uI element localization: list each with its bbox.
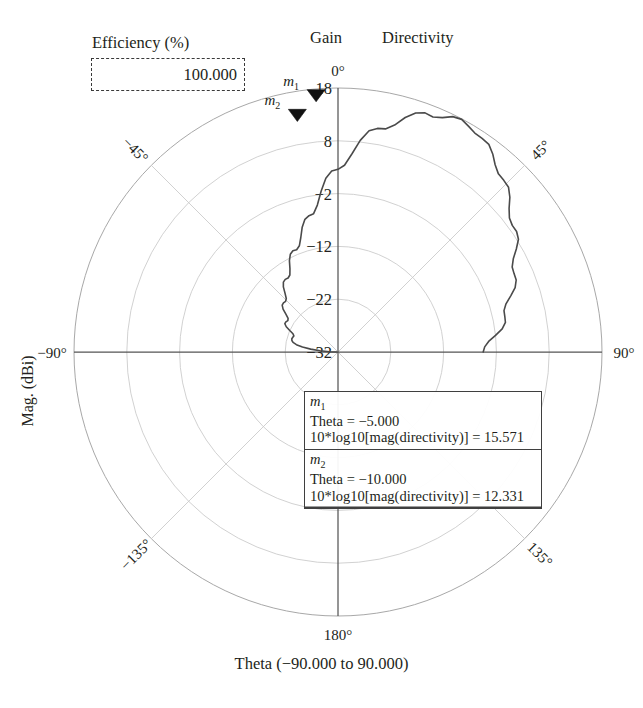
marker-readout-m2[interactable]: m2 Theta = −10.000 10*log10[mag(directiv… bbox=[304, 450, 542, 508]
y-axis-label: Mag. (dBi) bbox=[19, 336, 37, 446]
angle-tick-label: 135° bbox=[524, 539, 555, 570]
marker-readout-group: m1 Theta = −5.000 10*log10[mag(directivi… bbox=[304, 391, 542, 509]
marker-m1-name: m1 bbox=[310, 394, 536, 413]
x-axis-label: Theta (−90.000 to 90.000) bbox=[0, 654, 643, 674]
marker-m1-theta: Theta = −5.000 bbox=[310, 413, 536, 429]
radial-tick-labels: 188−2−12−22−32 bbox=[306, 79, 332, 362]
marker-triangle-m2[interactable] bbox=[288, 109, 306, 121]
efficiency-value: 100.000 bbox=[183, 65, 237, 85]
legend-item-directivity[interactable]: Directivity bbox=[382, 28, 453, 48]
angle-tick-label: 90° bbox=[614, 345, 635, 361]
radial-tick-label: −32 bbox=[306, 343, 332, 362]
marker-m2-name: m2 bbox=[310, 452, 536, 471]
angle-tick-label: −45° bbox=[119, 134, 151, 166]
marker-m1-value: 10*log10[mag(directivity)] = 15.571 bbox=[310, 429, 536, 445]
marker-readout-m1[interactable]: m1 Theta = −5.000 10*log10[mag(directivi… bbox=[304, 391, 542, 450]
marker-m2-value: 10*log10[mag(directivity)] = 12.331 bbox=[310, 488, 536, 504]
marker-label-m1: m1 bbox=[283, 73, 299, 92]
polar-plot-root: 0°45°90°135°180°−135°−90°−45°188−2−12−22… bbox=[0, 0, 643, 708]
data-trace-directivity bbox=[282, 113, 518, 352]
angle-tick-label: 180° bbox=[324, 627, 353, 643]
angle-tick-label: −90° bbox=[37, 345, 66, 361]
radial-tick-label: −22 bbox=[306, 290, 332, 309]
grid-spoke bbox=[338, 165, 525, 352]
marker-m2-theta: Theta = −10.000 bbox=[310, 471, 536, 487]
legend-item-gain[interactable]: Gain bbox=[310, 28, 342, 48]
angle-tick-label: −135° bbox=[117, 536, 154, 573]
grid-spoke bbox=[151, 165, 338, 352]
polar-chart-svg: 0°45°90°135°180°−135°−90°−45°188−2−12−22… bbox=[0, 0, 643, 708]
radial-tick-label: 8 bbox=[324, 132, 332, 151]
radial-tick-label: −12 bbox=[306, 237, 332, 256]
efficiency-value-box[interactable]: 100.000 bbox=[91, 58, 245, 91]
angle-tick-label: 45° bbox=[528, 137, 554, 163]
angle-tick-label: 0° bbox=[331, 63, 345, 79]
efficiency-title: Efficiency (%) bbox=[92, 33, 189, 53]
